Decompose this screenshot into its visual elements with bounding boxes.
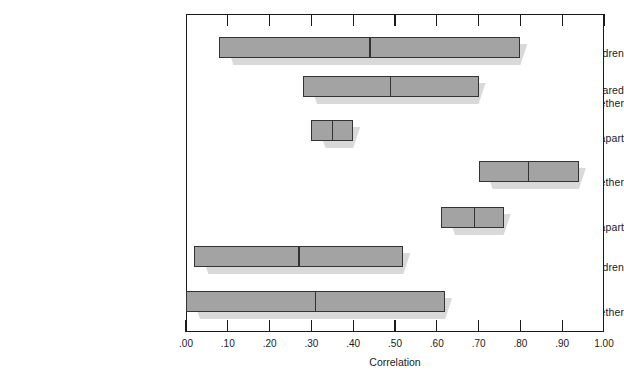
- x-tick-label-0: .00: [179, 338, 193, 349]
- x-tick-label-3: .30: [304, 338, 318, 349]
- median-marker: [332, 120, 333, 141]
- x-tick-bottom-8: [520, 320, 521, 332]
- x-tick-top-9: [562, 14, 563, 26]
- x-tick-top-6: [436, 14, 437, 26]
- median-marker: [528, 161, 529, 182]
- x-tick-bottom-6: [436, 320, 437, 332]
- median-marker: [474, 207, 475, 228]
- x-tick-top-5: [394, 14, 395, 26]
- x-tick-bottom-7: [478, 320, 479, 332]
- x-tick-top-2: [269, 14, 270, 26]
- median-marker: [390, 76, 391, 97]
- x-tick-label-7: .70: [472, 338, 486, 349]
- x-tick-bottom-5: [394, 320, 395, 332]
- x-tick-top-8: [520, 14, 521, 26]
- x-tick-label-10: 1.00: [594, 338, 613, 349]
- x-tick-bottom-3: [311, 320, 312, 332]
- x-tick-top-1: [227, 14, 228, 26]
- x-tick-top-10: [603, 14, 604, 26]
- x-tick-label-1: .10: [221, 338, 235, 349]
- x-tick-bottom-9: [562, 320, 563, 332]
- median-marker: [315, 291, 316, 312]
- correlation-range-chart: Parents and children Brothers and sister…: [0, 0, 624, 382]
- median-marker: [298, 246, 299, 267]
- x-tick-label-2: .20: [263, 338, 277, 349]
- x-tick-bottom-1: [227, 320, 228, 332]
- x-tick-label-8: .80: [513, 338, 527, 349]
- x-tick-top-3: [311, 14, 312, 26]
- x-tick-label-5: .50: [388, 338, 402, 349]
- x-tick-top-4: [353, 14, 354, 26]
- range-bar[interactable]: [441, 207, 504, 228]
- x-tick-bottom-4: [353, 320, 354, 332]
- x-tick-top-7: [478, 14, 479, 26]
- x-tick-label-6: .60: [430, 338, 444, 349]
- x-axis-title: Correlation: [369, 356, 420, 368]
- x-tick-bottom-2: [269, 320, 270, 332]
- x-tick-bottom-0: [185, 320, 186, 332]
- x-tick-label-9: .90: [555, 338, 569, 349]
- x-tick-label-4: .40: [346, 338, 360, 349]
- median-marker: [369, 37, 370, 58]
